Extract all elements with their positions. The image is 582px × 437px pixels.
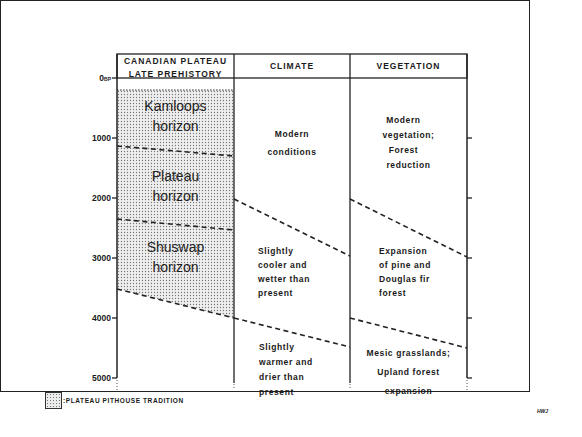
cell-line: Forest [340,143,467,158]
cell-line: Slightly [258,244,310,258]
climate-cooler-wetter: Slightly cooler and wetter than present [258,244,310,300]
cell-line: Mesic grasslands; [350,344,467,363]
author-signature: HWJ [537,408,548,414]
header-climate: CLIMATE [234,60,350,73]
cell-line: of pine and [379,258,431,272]
cell-line: Modern [234,125,350,143]
plateau-horizon: Plateau horizon [117,166,234,206]
y-tick-2000: 2000 [51,193,111,203]
bp-unit: BP [104,76,111,82]
kamloops-horizon: Kamloops horizon [117,96,234,136]
legend-label: :PLATEAU PITHOUSE TRADITION [63,397,184,404]
cell-line: present [259,385,313,400]
y-tick-1000: 1000 [51,133,111,143]
header-canadian-plateau: CANADIAN PLATEAU LATE PREHISTORY [117,55,234,81]
cell-line: conditions [234,143,350,161]
horizon-label: horizon [117,116,234,136]
vegetation-mesic-grasslands: Mesic grasslands; Upland forest expansio… [350,344,467,401]
cell-line: warmer and [259,355,313,370]
cell-line: forest [379,286,431,300]
header-line-1: CANADIAN PLATEAU [117,55,234,68]
legend-stipple-swatch [45,392,62,409]
cell-line: Expansion [379,244,431,258]
cell-line: present [258,286,310,300]
shuswap-horizon: Shuswap horizon [117,237,234,277]
cell-line: vegetation; [350,128,467,143]
y-tick-3000: 3000 [51,253,111,263]
cell-line: Modern [340,113,467,128]
horizon-name: Kamloops [117,96,234,116]
cell-line: expansion [350,382,467,401]
cell-line: Upland forest [350,363,467,382]
cell-line: cooler and [258,258,310,272]
cell-line: reduction [350,158,467,173]
climate-warmer-drier: Slightly warmer and drier than present [259,340,313,400]
header-vegetation: VEGETATION [350,60,467,73]
cell-line: Slightly [259,340,313,355]
header-line-2: LATE PREHISTORY [117,68,234,81]
cell-line: Douglas fir [379,272,431,286]
y-tick-4000: 4000 [51,313,111,323]
horizon-name: Plateau [117,166,234,186]
climate-modern: Modern conditions [234,125,350,161]
vegetation-modern: Modern vegetation; Forest reduction [350,113,467,173]
vegetation-pine-douglas-fir: Expansion of pine and Douglas fir forest [379,244,431,300]
cell-line: drier than [259,370,313,385]
horizon-label: horizon [117,257,234,277]
horizon-label: horizon [117,186,234,206]
y-tick-5000: 5000 [51,373,111,383]
horizon-name: Shuswap [117,237,234,257]
y-tick-0: 0BP [51,73,111,83]
cell-line: wetter than [258,272,310,286]
